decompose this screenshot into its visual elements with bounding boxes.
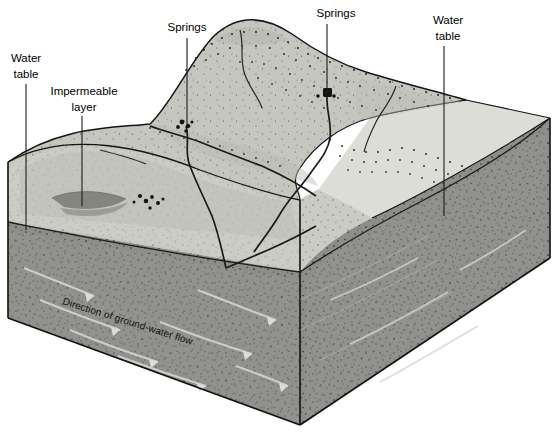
label-springs-left: Springs (168, 21, 207, 33)
figure-canvas: Water table Impermeable layer Springs Sp… (0, 0, 556, 437)
groundwater-block-diagram: Water table Impermeable layer Springs Sp… (0, 0, 556, 437)
label-impermeable-layer-line2: layer (72, 101, 97, 113)
label-impermeable-layer-line1: Impermeable (50, 85, 117, 97)
label-water-table-right-line1: Water (433, 14, 463, 26)
label-water-table-right-line2: table (436, 30, 461, 42)
label-springs-right: Springs (317, 7, 356, 19)
label-water-table-left-line1: Water (11, 52, 41, 64)
label-water-table-left-line2: table (14, 68, 39, 80)
